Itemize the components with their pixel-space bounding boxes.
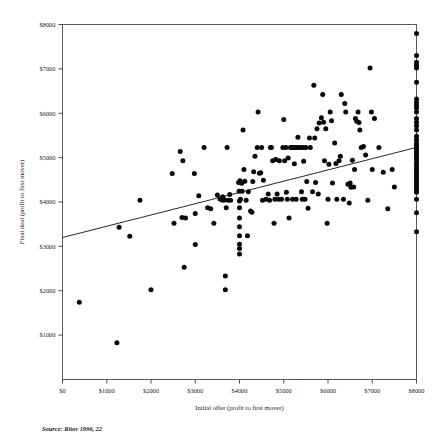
data-point [77, 300, 82, 305]
data-point [337, 158, 342, 163]
data-point [127, 234, 132, 239]
data-point [312, 136, 317, 141]
data-point [287, 215, 292, 220]
y-tick-label: $3000 [40, 243, 56, 250]
data-point [347, 200, 352, 205]
y-axis-ticks [59, 25, 63, 336]
x-tick-label: $1000 [99, 387, 115, 394]
data-point [211, 221, 216, 226]
data-point [339, 92, 344, 97]
data-point [272, 221, 277, 226]
data-point [237, 246, 242, 251]
y-tick-label: $6000 [40, 110, 56, 117]
data-point [414, 128, 419, 133]
data-point [237, 233, 242, 238]
data-point [196, 193, 201, 198]
data-point [255, 145, 260, 150]
data-point [250, 179, 255, 184]
data-point [183, 215, 188, 220]
data-point [261, 178, 266, 183]
data-point [208, 206, 213, 211]
data-point [193, 211, 198, 216]
x-tick-label: $5000 [276, 387, 292, 394]
data-point [352, 167, 357, 172]
data-point [414, 31, 419, 36]
y-tick-label: $1000 [40, 331, 56, 338]
data-point [341, 197, 346, 202]
data-point [242, 179, 247, 184]
data-point [392, 184, 397, 189]
data-point [414, 80, 419, 85]
data-point [301, 159, 306, 164]
data-point [365, 198, 370, 203]
data-point [237, 215, 242, 220]
data-point [357, 128, 362, 133]
data-point [381, 170, 386, 175]
data-point [414, 210, 419, 215]
data-point [237, 205, 242, 210]
data-point [332, 140, 337, 145]
data-point [316, 192, 321, 197]
data-point [114, 340, 119, 345]
data-point [225, 145, 230, 150]
scatter-plot-svg: $1000$2000$3000$4000$5000$6000$7000$8000… [0, 0, 445, 444]
data-point [244, 198, 249, 203]
data-point [238, 197, 243, 202]
y-tick-label: $4000 [40, 198, 56, 205]
data-point [322, 158, 327, 163]
data-point [317, 121, 322, 126]
data-point [302, 197, 307, 202]
data-point [414, 229, 419, 234]
data-point [245, 233, 250, 238]
data-point [414, 197, 419, 202]
x-axis-ticks [63, 380, 417, 384]
data-point [241, 167, 246, 172]
data-point [414, 123, 419, 128]
x-tick-label: $8000 [409, 387, 425, 394]
data-point [338, 154, 343, 159]
data-point [361, 144, 366, 149]
data-point [258, 170, 263, 175]
y-tick-label: $7000 [40, 65, 56, 72]
data-point [385, 206, 390, 211]
data-point [328, 109, 333, 114]
data-point [299, 189, 304, 194]
data-point [251, 169, 256, 174]
data-point [307, 136, 312, 141]
data-point [319, 115, 324, 120]
data-point [321, 120, 326, 125]
data-point [310, 189, 315, 194]
data-point [279, 197, 284, 202]
data-point [368, 65, 373, 70]
trend-line [63, 147, 417, 237]
y-tick-label: $2000 [40, 287, 56, 294]
data-point [249, 210, 254, 215]
data-point [303, 145, 308, 150]
data-point [323, 126, 328, 131]
data-point [281, 117, 286, 122]
data-point [275, 192, 280, 197]
data-point [237, 224, 242, 229]
data-point [170, 171, 175, 176]
data-point [277, 158, 282, 163]
data-point [313, 180, 318, 185]
data-point [334, 197, 339, 202]
source-note: Source: Ritov 1996, 22 [42, 425, 103, 432]
data-point [414, 53, 419, 58]
data-point [356, 120, 361, 125]
x-tick-label: $4000 [232, 387, 248, 394]
data-point [320, 92, 325, 97]
data-point [342, 101, 347, 106]
scatter-plot-figure: $1000$2000$3000$4000$5000$6000$7000$8000… [0, 0, 445, 444]
data-point [414, 109, 419, 114]
data-point [193, 242, 198, 247]
data-point [223, 287, 228, 292]
data-point [306, 206, 311, 211]
data-point [286, 156, 291, 161]
data-point [351, 184, 356, 189]
data-point [256, 109, 261, 114]
x-tick-label: $3000 [187, 387, 203, 394]
y-axis-tick-labels: $1000$2000$3000$4000$5000$6000$7000$8000 [40, 21, 56, 339]
data-point [356, 109, 361, 114]
data-point [137, 198, 142, 203]
